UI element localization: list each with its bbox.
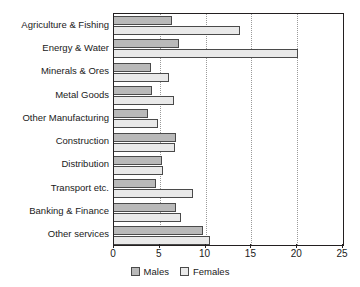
x-axis-tick-label: 5 xyxy=(156,248,162,259)
bar-males xyxy=(114,86,152,95)
y-axis-label: Distribution xyxy=(0,158,109,169)
bar-group xyxy=(114,61,343,84)
y-axis-label: Agriculture & Fishing xyxy=(0,19,109,30)
bar-females xyxy=(114,166,163,175)
x-axis-tick-mark xyxy=(342,244,343,248)
bar-group xyxy=(114,14,343,37)
bar-group xyxy=(114,37,343,60)
bar-group xyxy=(114,107,343,130)
bar-males xyxy=(114,179,156,188)
bar-females xyxy=(114,26,240,35)
x-axis-tick-mark xyxy=(205,244,206,248)
legend-label: Females xyxy=(193,266,229,277)
x-axis-tick-label: 0 xyxy=(110,248,116,259)
x-axis-tick-mark xyxy=(113,244,114,248)
y-axis-label: Transport etc. xyxy=(0,182,109,193)
legend-label: Males xyxy=(144,266,169,277)
bar-group xyxy=(114,224,343,247)
x-axis-tick-mark xyxy=(250,244,251,248)
legend-item-males[interactable]: Males xyxy=(131,266,169,277)
bar-group xyxy=(114,84,343,107)
y-axis-label: Energy & Water xyxy=(0,42,109,53)
plot-area xyxy=(113,13,344,246)
bar-rows xyxy=(114,14,343,245)
females-swatch xyxy=(180,267,189,276)
bar-males xyxy=(114,203,176,212)
chart-screenshot: Agriculture & FishingEnergy & WaterMiner… xyxy=(0,0,360,287)
x-axis-tick-label: 20 xyxy=(291,248,302,259)
x-axis-ticks: 0510152025 xyxy=(113,248,344,262)
bar-males xyxy=(114,39,179,48)
y-axis-label: Banking & Finance xyxy=(0,205,109,216)
bar-group xyxy=(114,177,343,200)
bar-females xyxy=(114,143,175,152)
bar-group xyxy=(114,200,343,223)
y-axis-labels: Agriculture & FishingEnergy & WaterMiner… xyxy=(0,13,109,246)
chart-legend: MalesFemales xyxy=(0,266,360,277)
x-axis-tick-label: 15 xyxy=(245,248,256,259)
bar-males xyxy=(114,109,148,118)
x-axis-tick-label: 10 xyxy=(199,248,210,259)
bar-females xyxy=(114,213,181,222)
bar-females xyxy=(114,96,174,105)
x-axis-tick-mark xyxy=(296,244,297,248)
bar-group xyxy=(114,131,343,154)
bar-females xyxy=(114,189,193,198)
bar-males xyxy=(114,63,151,72)
bar-females xyxy=(114,73,169,82)
males-swatch xyxy=(131,267,140,276)
x-axis-tick-label: 25 xyxy=(336,248,347,259)
bar-males xyxy=(114,133,176,142)
y-axis-label: Construction xyxy=(0,135,109,146)
y-axis-label: Metal Goods xyxy=(0,89,109,100)
bar-females xyxy=(114,119,158,128)
bar-males xyxy=(114,16,172,25)
x-axis-tick-mark xyxy=(159,244,160,248)
y-axis-label: Other services xyxy=(0,228,109,239)
y-axis-label: Other Manufacturing xyxy=(0,112,109,123)
bar-males xyxy=(114,226,203,235)
bar-females xyxy=(114,236,210,245)
bar-males xyxy=(114,156,162,165)
bar-females xyxy=(114,49,298,58)
bar-group xyxy=(114,154,343,177)
legend-item-females[interactable]: Females xyxy=(180,266,229,277)
y-axis-label: Minerals & Ores xyxy=(0,65,109,76)
